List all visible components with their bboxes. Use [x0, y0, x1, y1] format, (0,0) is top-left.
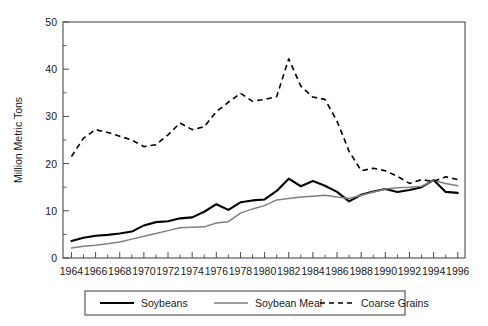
y-tick-label: 30 — [45, 110, 57, 122]
y-tick-label: 0 — [51, 252, 57, 264]
x-tick-label: 1970 — [132, 265, 156, 277]
x-tick-label: 1968 — [108, 265, 132, 277]
x-tick-label: 1964 — [60, 265, 84, 277]
series-line-coarse-grains — [71, 59, 457, 184]
y-tick-label: 10 — [45, 205, 57, 217]
x-tick-label: 1996 — [446, 265, 470, 277]
x-tick-label: 1976 — [205, 265, 229, 277]
x-tick-label: 1966 — [84, 265, 108, 277]
x-axis: 1964196619681970197219741976197819801982… — [60, 252, 470, 277]
y-axis-label-group: Million Metric Tons — [12, 97, 24, 183]
x-tick-label: 1992 — [398, 265, 422, 277]
legend-label-soybean-meal: Soybean Meal — [255, 297, 322, 309]
line-chart: Million Metric Tons 01020304050 19641966… — [0, 0, 488, 326]
x-tick-label: 1986 — [325, 265, 349, 277]
x-tick-label: 1982 — [277, 265, 301, 277]
y-tick-label: 50 — [45, 16, 57, 28]
y-axis: 01020304050 — [45, 16, 69, 264]
x-tick-label: 1972 — [156, 265, 180, 277]
legend: SoybeansSoybean MealCoarse Grains — [85, 291, 429, 315]
plot-frame — [63, 22, 465, 258]
x-tick-label: 1978 — [229, 265, 253, 277]
y-tick-label: 20 — [45, 158, 57, 170]
x-tick-label: 1974 — [180, 265, 204, 277]
chart-container: Million Metric Tons 01020304050 19641966… — [0, 0, 488, 326]
series-layer — [71, 59, 457, 248]
x-tick-label: 1980 — [253, 265, 277, 277]
x-tick-label: 1990 — [374, 265, 398, 277]
y-tick-label: 40 — [45, 63, 57, 75]
x-tick-label: 1984 — [301, 265, 325, 277]
legend-label-coarse-grains: Coarse Grains — [361, 297, 429, 309]
y-axis-label: Million Metric Tons — [12, 97, 24, 183]
x-tick-label: 1994 — [422, 265, 446, 277]
legend-label-soybeans: Soybeans — [141, 297, 188, 309]
x-tick-label: 1988 — [350, 265, 374, 277]
